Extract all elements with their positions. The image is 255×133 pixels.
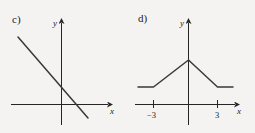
figure-c-graph: x y	[0, 0, 127, 133]
plot-line-c	[18, 37, 88, 118]
figure-d-graph: −3 3 x y	[127, 0, 254, 133]
x-axis-label-c: x	[109, 106, 114, 116]
figure-panel-c: c) x y	[0, 0, 127, 133]
x-axis-label-d: x	[236, 106, 241, 116]
y-axis-label-c: y	[52, 18, 57, 28]
figure-sheet: c) x y d)	[0, 0, 255, 133]
plot-piecewise-d	[138, 60, 233, 87]
x-tick-label-3: 3	[215, 110, 219, 120]
y-axis-label-d: y	[179, 18, 184, 28]
figure-panel-d: d) −3 3 x y	[127, 0, 254, 133]
x-tick-label-minus3: −3	[147, 110, 156, 120]
